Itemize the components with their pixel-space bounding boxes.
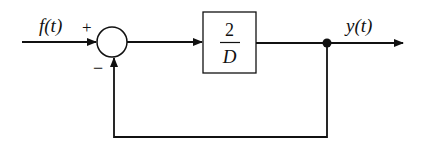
summing-junction (97, 27, 127, 57)
minus-sign: − (93, 58, 103, 78)
block-denominator: D (222, 46, 237, 67)
input-label: f(t) (39, 15, 62, 37)
plus-sign: + (82, 18, 92, 37)
output-label: y(t) (344, 15, 372, 37)
block-numerator: 2 (225, 20, 234, 40)
block-diagram: f(t) + − 2 D y(t) (0, 0, 423, 146)
